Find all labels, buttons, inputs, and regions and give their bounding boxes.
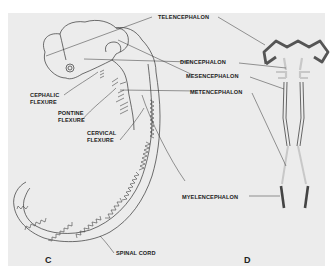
label-myelencephalon: MYELENCEPHALON [182, 194, 238, 201]
telencephalon-shape [264, 41, 328, 64]
myelencephalon-shape [281, 186, 308, 208]
nerve-roots [100, 70, 128, 114]
panel-label-d: D [244, 255, 251, 265]
label-spinal-cord: SPINAL CORD [116, 250, 156, 257]
diencephalon-shape [276, 58, 310, 78]
leader-lines-d [218, 17, 286, 196]
label-cervical-flexure: CERVICAL FLEXURE [87, 130, 116, 143]
leader-lines [46, 17, 198, 253]
label-pontine-flexure: PONTINE FLEXURE [58, 110, 85, 123]
label-telencephalon: TELENCEPHALON [158, 14, 209, 21]
neural-tube-walls [283, 82, 304, 146]
label-metencephalon: METENCEPHALON [190, 89, 242, 96]
panel-label-c: C [45, 255, 52, 265]
embryo-diagram [0, 0, 332, 273]
label-mesencephalon: MESENCEPHALON [186, 73, 239, 80]
label-diencephalon: DIENCEPHALON [180, 59, 226, 66]
label-cephalic-flexure: CEPHALIC FLEXURE [30, 92, 59, 105]
